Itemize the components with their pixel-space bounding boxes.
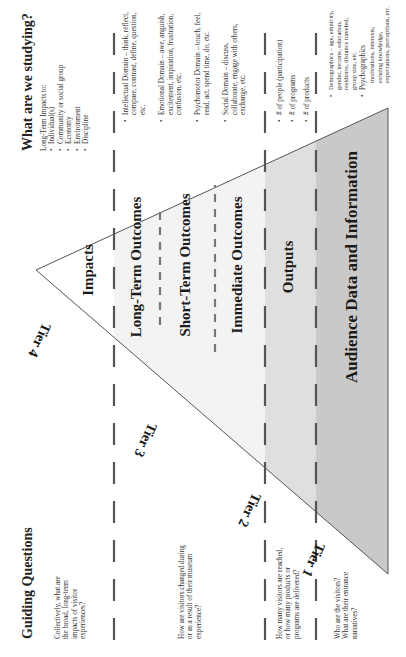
level-outputs: Outputs <box>280 241 297 294</box>
level-immediate-outcomes: Immediate Outcomes <box>229 196 246 333</box>
guiding-questions-header: Guiding Questions <box>20 527 36 639</box>
studying-tier2-list: # of people (participation) # of program… <box>276 10 311 122</box>
level-long-term-outcomes: Long-Term Outcomes <box>128 197 145 338</box>
list-item: Economy <box>65 41 73 151</box>
level-impacts: Impacts <box>80 244 97 296</box>
studying-tier3-list: Intellectual Domain – think, reflect, co… <box>122 10 247 122</box>
list-item: # of products <box>303 10 311 122</box>
studying-tier3: Intellectual Domain – think, reflect, co… <box>122 10 247 122</box>
question-tier4: Collectively, what are the broad, long-t… <box>54 567 88 639</box>
psychographics-label: Psychographics <box>359 45 367 90</box>
level-short-term-outcomes: Short-Term Outcomes <box>177 193 194 336</box>
list-item: Psychographics <box>360 5 368 97</box>
list-item: Environment <box>74 41 82 151</box>
question-tier1: Who are the visitors? What are their ent… <box>334 567 359 639</box>
level-audience-data: Audience Data and Information <box>342 151 362 383</box>
studying-tier2: # of people (participation) # of program… <box>276 10 311 122</box>
list-item: Individual(s) <box>48 41 56 151</box>
studying-tier1: Demographics – age, ethnicity, gender, i… <box>327 5 391 97</box>
question-tier3: How are visitors changed during or as a … <box>178 544 203 639</box>
list-item: # of programs <box>289 10 297 122</box>
list-item: Psychomotor Domain – touch, feel, read, … <box>194 10 211 122</box>
pyramid-diagram: Guiding Questions What are we studying? … <box>0 0 406 657</box>
list-item: Community or social group <box>57 41 65 151</box>
list-item: # of people (participation) <box>276 10 284 122</box>
question-tier2: How many visitors are reached, or how ma… <box>276 541 301 639</box>
list-item: Emotional Domain – awe, anguish, excitem… <box>158 10 183 122</box>
studying-tier4-list: Individual(s) Community or social group … <box>48 41 90 151</box>
what-studying-header: What are we studying? <box>20 13 36 151</box>
list-item: Social Domain – discuss, collaborate, en… <box>222 10 247 122</box>
list-item: Intellectual Domain – think, reflect, co… <box>122 10 147 122</box>
studying-tier4-intro: Long-Term Impacts to: <box>40 41 48 151</box>
studying-tier1-list: Demographics – age, ethnicity, gender, i… <box>327 5 368 97</box>
psychographics-detail: motivations, interests, existing knowled… <box>368 5 391 97</box>
list-item: Discipline <box>82 41 90 151</box>
studying-tier4: Long-Term Impacts to: Individual(s) Comm… <box>40 41 90 151</box>
list-item: Demographics – age, ethnicity, gender, i… <box>327 5 357 97</box>
